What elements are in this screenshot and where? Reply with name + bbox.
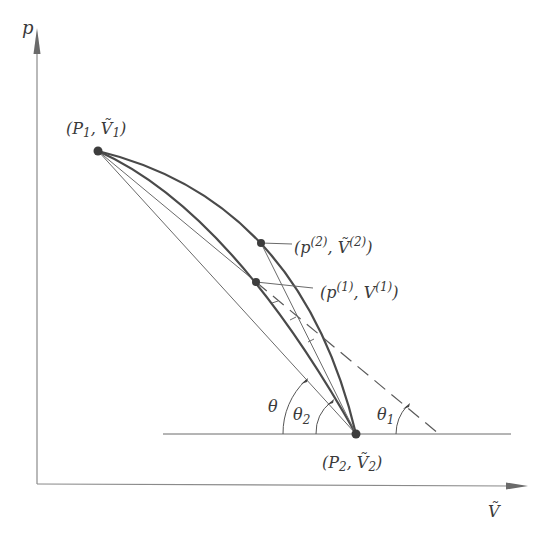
label-p1: (P1, Ṽ1)	[66, 118, 126, 140]
x-axis-label: Ṽ	[488, 501, 501, 521]
dashed-tangent-line	[256, 282, 439, 434]
point-iter1	[252, 278, 260, 286]
y-axis-label: p	[22, 17, 34, 38]
label-theta1: θ1	[377, 405, 394, 427]
label-theta: θ	[268, 397, 278, 416]
x-axis-arrow-icon	[506, 483, 528, 490]
label-theta2: θ2	[293, 405, 310, 427]
leader-iter2	[261, 243, 292, 244]
theta1-arrow-icon	[403, 403, 410, 409]
diagram-canvas: p Ṽ (P1, Ṽ1) (P2, Ṽ2) (p(2), Ṽ(2)) (p(1)…	[0, 0, 555, 540]
chord-p1-p2	[98, 151, 356, 434]
theta2-arc	[316, 402, 331, 434]
y-axis-arrow-icon	[34, 28, 41, 54]
label-p2: (P2, Ṽ2)	[322, 452, 382, 474]
point-p2	[352, 430, 361, 439]
label-iter2: (p(2), Ṽ(2))	[294, 235, 372, 257]
theta1-arc	[396, 406, 407, 434]
label-iter1: (p(1), V(1))	[320, 280, 398, 302]
point-p1	[94, 147, 103, 156]
leader-iter1	[256, 282, 313, 288]
theta-arrow-icon	[301, 378, 308, 384]
point-iter2	[257, 239, 265, 247]
x-axis	[37, 484, 515, 486]
